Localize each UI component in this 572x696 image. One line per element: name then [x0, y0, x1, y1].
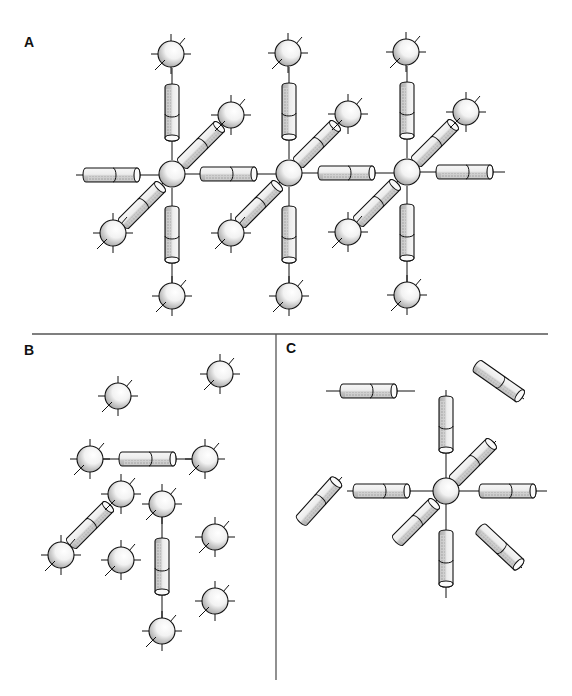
- sphere-node: [211, 95, 251, 135]
- rod: [165, 206, 179, 263]
- rod: [479, 484, 536, 498]
- rod: [436, 165, 493, 179]
- rod: [282, 206, 296, 263]
- sphere: [394, 159, 420, 185]
- rod-cap: [170, 452, 176, 466]
- sphere-node: [200, 354, 240, 394]
- rod-shading: [283, 88, 288, 136]
- sphere-node: [101, 474, 141, 514]
- rod: [471, 359, 526, 403]
- panel-label-b: B: [24, 342, 34, 358]
- sphere-node: [98, 376, 138, 416]
- rod: [439, 530, 453, 587]
- rod-cap: [165, 257, 179, 263]
- rod-cap: [487, 165, 493, 179]
- rod-cap: [404, 484, 410, 498]
- sphere-node: [433, 478, 459, 504]
- rod-shading: [441, 173, 489, 178]
- rod-cap: [439, 581, 453, 587]
- rod-cap: [251, 167, 257, 181]
- rod: [400, 204, 414, 261]
- sphere-node: [269, 276, 309, 316]
- spheres: [41, 32, 486, 651]
- rod: [292, 119, 342, 169]
- rod-cap: [369, 166, 375, 180]
- rod-shading: [88, 176, 136, 181]
- rod: [474, 522, 525, 571]
- rod: [282, 83, 296, 140]
- rod-shading: [440, 401, 445, 449]
- rod-shading: [124, 460, 172, 465]
- rod: [391, 497, 441, 547]
- rod: [83, 168, 140, 182]
- rod-shading: [156, 543, 161, 591]
- rod: [353, 484, 410, 498]
- rod: [448, 437, 498, 487]
- sphere-node: [142, 484, 182, 524]
- rod-shading: [440, 535, 445, 583]
- rod: [119, 452, 176, 466]
- rod-shading: [358, 492, 406, 497]
- rod-cap: [282, 257, 296, 263]
- rod-shading: [345, 392, 393, 397]
- sphere-node: [268, 33, 308, 73]
- rod: [340, 384, 397, 398]
- sphere-node: [276, 160, 302, 186]
- sphere-node: [394, 159, 420, 185]
- rod: [295, 475, 344, 527]
- rod: [400, 82, 414, 139]
- rod: [155, 538, 169, 595]
- sphere-node: [142, 611, 182, 651]
- sphere: [276, 160, 302, 186]
- rod-shading: [401, 87, 406, 135]
- sphere-node: [70, 439, 110, 479]
- rod: [165, 84, 179, 141]
- sphere-node: [446, 92, 486, 132]
- sphere-node: [185, 439, 225, 479]
- sphere-node: [101, 540, 141, 580]
- rod-shading: [166, 211, 171, 259]
- rod-cap: [155, 589, 169, 595]
- rod: [117, 180, 167, 230]
- sphere-node: [386, 32, 426, 72]
- sphere-node: [195, 581, 235, 621]
- rod: [352, 178, 402, 228]
- rod-spacers: [65, 82, 536, 595]
- sphere-node: [151, 34, 191, 74]
- rod-cap: [134, 168, 140, 182]
- panel-label-c: C: [286, 340, 296, 356]
- rod-cap: [530, 484, 536, 498]
- rod-shading: [323, 174, 371, 179]
- rod-cap: [439, 447, 453, 453]
- sphere-node: [387, 275, 427, 315]
- rod: [318, 166, 375, 180]
- rod-shading: [166, 89, 171, 137]
- sphere-node: [152, 276, 192, 316]
- sphere-node: [195, 517, 235, 557]
- panel-label-a: A: [24, 34, 34, 50]
- sphere: [433, 478, 459, 504]
- rod-shading: [283, 211, 288, 259]
- rod: [200, 167, 257, 181]
- sphere-node: [159, 161, 185, 187]
- rod-shading: [484, 492, 532, 497]
- rod-cap: [400, 255, 414, 261]
- rod-cap: [282, 134, 296, 140]
- rod-cap: [165, 135, 179, 141]
- rod: [439, 396, 453, 453]
- sphere: [159, 161, 185, 187]
- rod-cap: [400, 133, 414, 139]
- rod-cap: [391, 384, 397, 398]
- rod-shading: [205, 175, 253, 180]
- sphere-node: [328, 94, 368, 134]
- rod-shading: [401, 209, 406, 257]
